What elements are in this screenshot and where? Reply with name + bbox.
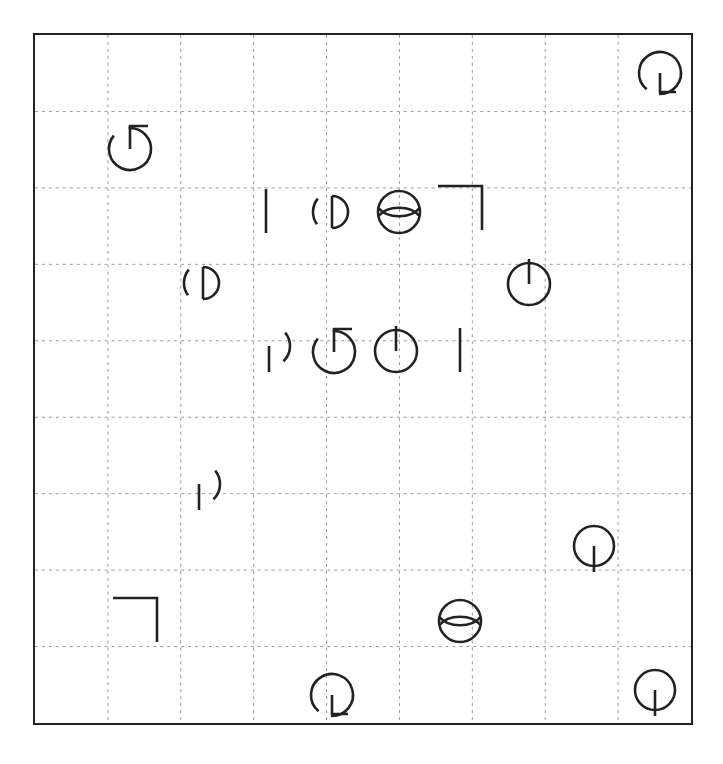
shape-circle-inner-d	[304, 182, 364, 242]
circle-up-stem-tail-icon	[100, 117, 160, 177]
shape-circle-up-stem-tail	[304, 320, 364, 380]
corner-bracket-icon	[107, 590, 167, 650]
shape-circle-up-stem	[366, 319, 426, 379]
shape-circle-gap-right-down-stem	[239, 318, 299, 378]
circle-inner-d-icon	[175, 253, 235, 313]
shape-circle-l-tail	[302, 667, 362, 727]
circle-up-stem-tail-icon	[304, 320, 364, 380]
circle-lens-icon	[430, 591, 490, 651]
circle-lens-icon	[369, 182, 429, 242]
circle-up-stem-icon	[366, 319, 426, 379]
circle-down-stem-icon	[564, 520, 624, 580]
vertical-bar-icon	[430, 320, 490, 380]
puzzle-canvas	[0, 0, 723, 764]
circle-up-stem-icon	[499, 252, 559, 312]
shape-vertical-bar	[236, 181, 296, 241]
circle-gap-right-down-stem-icon	[169, 456, 229, 516]
corner-bracket-icon	[432, 178, 492, 238]
shape-circle-gap-right-down-stem	[169, 456, 229, 516]
circle-down-stem-icon	[625, 664, 685, 724]
shape-circle-lens	[369, 182, 429, 242]
shape-circle-down-stem	[625, 664, 685, 724]
circle-gap-right-down-stem-icon	[239, 318, 299, 378]
shape-circle-down-stem	[564, 520, 624, 580]
shape-circle-l-tail	[630, 45, 690, 105]
shape-corner-bracket	[107, 590, 167, 650]
shape-corner-bracket	[432, 178, 492, 238]
shape-circle-up-stem-tail	[100, 117, 160, 177]
shape-circle-lens	[430, 591, 490, 651]
shape-vertical-bar	[430, 320, 490, 380]
circle-l-tail-icon	[302, 667, 362, 727]
vertical-bar-icon	[236, 181, 296, 241]
circle-inner-d-icon	[304, 182, 364, 242]
shape-circle-inner-d	[175, 253, 235, 313]
circle-l-tail-icon	[630, 45, 690, 105]
shape-circle-up-stem	[499, 252, 559, 312]
